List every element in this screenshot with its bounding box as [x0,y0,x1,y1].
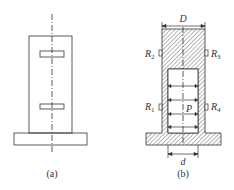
caption-a: (a) [46,168,57,180]
label-R2: R2 [144,48,155,61]
label-R1: R1 [144,101,155,114]
gauge-R3 [205,50,208,56]
dimension-d-label: d [181,156,187,167]
diagram-canvas: (a) P D [0,0,234,190]
figure-b: P D d R2 R3 R1 R4 (b) [144,13,221,180]
label-R4: R4 [210,101,221,114]
column-base [14,133,87,145]
caption-b: (b) [177,168,189,180]
pressure-label: P [185,103,192,114]
column-body [29,36,72,133]
gauge-R1 [159,104,162,110]
dimension-D-label: D [178,13,187,24]
gauge-R2 [159,50,162,56]
figure-a: (a) [14,14,87,180]
label-R3: R3 [210,48,221,61]
gauge-R4 [205,104,208,110]
